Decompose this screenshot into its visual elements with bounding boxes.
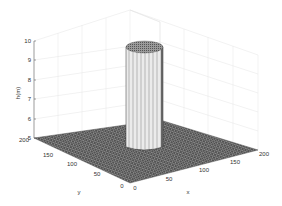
- y-tick-200: 200: [19, 137, 30, 143]
- z-tick-8: 8: [28, 77, 32, 83]
- y-tick-0: 0: [120, 183, 124, 189]
- y-tick-50: 50: [94, 171, 101, 177]
- surface-plot: 10 9 8 7 6 5 h(m) 200 150 100 50 0 y 0 5…: [0, 0, 282, 206]
- z-axis: 10 9 8 7 6 5 h(m): [15, 38, 36, 141]
- x-tick-200: 200: [259, 151, 270, 157]
- z-tick-7: 7: [28, 96, 32, 102]
- x-axis-label: x: [187, 189, 190, 195]
- column-surface: [126, 41, 163, 150]
- x-tick-100: 100: [199, 167, 210, 173]
- plot-canvas: 10 9 8 7 6 5 h(m) 200 150 100 50 0 y 0 5…: [0, 0, 282, 206]
- z-tick-10: 10: [24, 38, 31, 44]
- y-tick-150: 150: [43, 152, 54, 158]
- y-tick-100: 100: [67, 161, 78, 167]
- x-tick-50: 50: [166, 176, 173, 182]
- y-axis-label: y: [78, 189, 81, 195]
- z-axis-label: h(m): [15, 87, 21, 99]
- z-tick-9: 9: [28, 57, 32, 63]
- x-tick-150: 150: [230, 159, 241, 165]
- x-tick-0: 0: [133, 185, 137, 191]
- z-tick-6: 6: [28, 116, 32, 122]
